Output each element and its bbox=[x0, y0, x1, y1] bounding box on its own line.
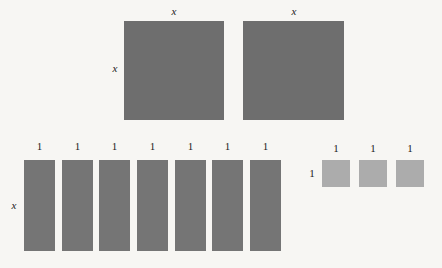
unit-tile-row-left-label: 1 bbox=[306, 168, 318, 179]
x-tile-5-top-label: 1 bbox=[175, 141, 206, 152]
unit-tile-3-top-label: 1 bbox=[396, 143, 424, 154]
x-tile-7-top-label: 1 bbox=[250, 141, 281, 152]
x-tile-4 bbox=[137, 160, 168, 251]
x-tile-1 bbox=[24, 160, 55, 251]
x-tile-6 bbox=[212, 160, 243, 251]
x-squared-tile-1-top-label: x bbox=[164, 6, 184, 17]
x-squared-tile-1-left-label: x bbox=[108, 63, 122, 74]
x-tile-6-top-label: 1 bbox=[212, 141, 243, 152]
diagram-canvas: x x x x 1 1 1 1 1 1 1 1 1 1 1 bbox=[0, 0, 442, 268]
tall-bar-row-left-label: x bbox=[7, 200, 21, 211]
unit-tile-1 bbox=[322, 160, 350, 187]
x-tile-3 bbox=[99, 160, 130, 251]
x-tile-2-top-label: 1 bbox=[62, 141, 93, 152]
x-squared-tile-1 bbox=[124, 21, 224, 120]
x-tile-2 bbox=[62, 160, 93, 251]
x-tile-1-top-label: 1 bbox=[24, 141, 55, 152]
x-tile-5 bbox=[175, 160, 206, 251]
unit-tile-2 bbox=[359, 160, 387, 187]
unit-tile-1-top-label: 1 bbox=[322, 143, 350, 154]
x-tile-4-top-label: 1 bbox=[137, 141, 168, 152]
x-tile-3-top-label: 1 bbox=[99, 141, 130, 152]
x-tile-7 bbox=[250, 160, 281, 251]
x-squared-tile-2-top-label: x bbox=[284, 6, 304, 17]
x-squared-tile-2 bbox=[243, 21, 344, 120]
unit-tile-3 bbox=[396, 160, 424, 187]
unit-tile-2-top-label: 1 bbox=[359, 143, 387, 154]
